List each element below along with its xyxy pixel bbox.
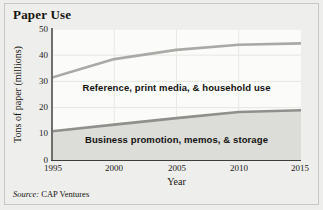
y-tick-50: 50 xyxy=(30,25,48,34)
x-tick-2015: 2015 xyxy=(280,163,320,173)
x-axis-line xyxy=(51,160,301,161)
y-tick-40: 40 xyxy=(30,51,48,60)
chart-figure: Paper Use xyxy=(0,0,323,210)
x-axis-tick-labels: 1995 2000 2005 2010 2015 xyxy=(52,163,301,175)
series-label-business: Business promotion, memos, & storage xyxy=(52,134,301,145)
x-tick-2010: 2010 xyxy=(219,163,259,173)
x-axis-title: Year xyxy=(52,176,301,187)
y-tick-10: 10 xyxy=(30,129,48,138)
y-axis-tick-labels: 50 40 30 20 10 0 xyxy=(28,0,48,210)
source-label: Source: xyxy=(13,189,39,199)
x-tick-2000: 2000 xyxy=(94,163,134,173)
x-tick-2005: 2005 xyxy=(157,163,197,173)
y-axis-title: Tons of paper (millions) xyxy=(12,25,23,165)
series-label-reference: Reference, print media, & household use xyxy=(52,82,301,93)
source-note: Source: CAP Ventures xyxy=(13,189,89,199)
x-tick-1995: 1995 xyxy=(33,163,73,173)
y-tick-20: 20 xyxy=(30,103,48,112)
y-tick-30: 30 xyxy=(30,77,48,86)
source-value: CAP Ventures xyxy=(41,189,89,199)
